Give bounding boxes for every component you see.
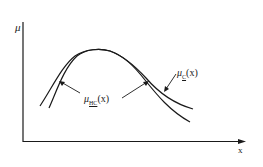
membership-function-diagram — [0, 0, 263, 167]
mu-hc-arrow-left — [61, 82, 80, 93]
x-axis-label: x — [238, 146, 243, 155]
mu-c-label: μC(x) — [177, 68, 198, 80]
mu-hc-arg: (x) — [97, 93, 109, 104]
curve-mu-c — [40, 49, 193, 109]
mu-c-arrow — [166, 74, 176, 89]
mu-hc-arrow-right — [122, 82, 147, 98]
mu-c-arg: (x) — [186, 67, 198, 78]
x-axis-arrow-icon — [238, 139, 246, 144]
mu-hc-label: μHC(x) — [84, 94, 109, 106]
arrow-head-icon — [164, 86, 169, 92]
y-axis-label: μ — [15, 22, 21, 33]
